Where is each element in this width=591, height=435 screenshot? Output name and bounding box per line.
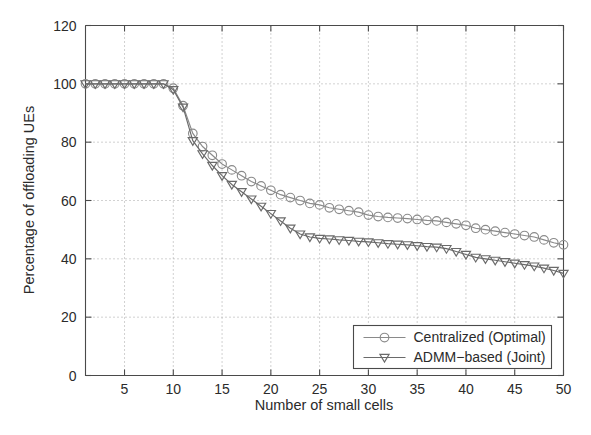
- chart-plot-area: 0204060801001205101520253035404550 Numbe…: [0, 0, 591, 435]
- y-tick-label: 60: [61, 193, 77, 209]
- x-tick-label: 30: [361, 381, 377, 397]
- y-tick-label: 40: [61, 251, 77, 267]
- legend-label-1[interactable]: Centralized (Optimal): [414, 329, 546, 345]
- chart-figure: 0204060801001205101520253035404550 Numbe…: [0, 0, 591, 435]
- x-tick-label: 40: [458, 381, 474, 397]
- x-tick-label: 20: [263, 381, 279, 397]
- series-line-2: [86, 84, 564, 274]
- series-1: [81, 80, 568, 250]
- x-tick-label: 10: [166, 381, 182, 397]
- legend-label-2[interactable]: ADMM−based (Joint): [414, 349, 546, 365]
- x-tick-label: 25: [312, 381, 328, 397]
- grid-lines: [86, 26, 564, 376]
- x-tick-label: 5: [121, 381, 129, 397]
- series-2: [81, 81, 568, 278]
- series-line-1: [86, 84, 564, 245]
- axis-frame: [86, 26, 564, 376]
- data-point-triangle: [227, 181, 236, 189]
- x-tick-label: 45: [507, 381, 523, 397]
- y-tick-label: 120: [53, 18, 77, 34]
- x-tick-label: 35: [409, 381, 425, 397]
- x-tick-label: 15: [214, 381, 230, 397]
- y-axis-title: Percentage of offloading UEs: [21, 106, 37, 294]
- x-tick-label: 50: [556, 381, 572, 397]
- x-axis-title: Number of small cells: [255, 397, 394, 413]
- y-tick-label: 100: [53, 76, 77, 92]
- y-tick-label: 0: [69, 368, 77, 384]
- axis-box: [86, 26, 564, 376]
- chart-legend: Centralized (Optimal)ADMM−based (Joint): [354, 326, 552, 369]
- data-series: [81, 80, 568, 278]
- y-tick-label: 20: [61, 309, 77, 325]
- axis-ticks: [86, 26, 564, 376]
- y-tick-label: 80: [61, 134, 77, 150]
